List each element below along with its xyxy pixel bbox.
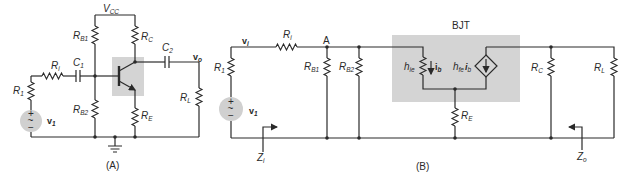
rl-resistor <box>196 88 202 106</box>
rb2-resistor <box>92 100 98 118</box>
label-zi: Zi <box>256 152 265 164</box>
rc-resistor-b <box>548 58 554 76</box>
label-c1: C1 <box>73 57 84 69</box>
ri-resistor <box>42 73 63 79</box>
label-rb2-b: RB2 <box>339 61 355 73</box>
c1-capacitor <box>76 70 80 82</box>
label-rb2: RB2 <box>73 104 89 116</box>
rb1-resistor-b <box>324 58 330 76</box>
re-resistor <box>132 108 138 126</box>
caption-b: (B) <box>416 161 429 172</box>
label-c2: C2 <box>162 42 173 54</box>
rb1-resistor <box>92 26 98 44</box>
rl-resistor-b <box>611 58 617 76</box>
r1-resistor <box>28 82 34 100</box>
label-r1-b: R1 <box>214 62 225 74</box>
label-rc: RC <box>141 31 153 43</box>
caption-a: (A) <box>106 160 119 171</box>
ri-resistor-b <box>276 44 297 50</box>
label-v1: v1 <box>47 116 56 127</box>
label-ri: Ri <box>51 60 60 72</box>
re-resistor-b <box>452 108 458 126</box>
label-rl: RL <box>180 92 191 104</box>
label-rc-b: RC <box>531 62 543 74</box>
c2-capacitor <box>165 56 169 68</box>
label-v1-b: v1 <box>249 106 258 117</box>
label-rl-b: RL <box>594 62 605 74</box>
source-minus-sign: − <box>28 122 34 133</box>
label-zo: Zo <box>576 151 587 163</box>
label-vi: vi <box>242 36 249 47</box>
r1-resistor-b <box>228 58 234 76</box>
label-r1: R1 <box>13 85 24 97</box>
label-ri-b: Ri <box>283 29 292 41</box>
circuit-figure: VCC RB1 RC C2 vo Ri C1 R1 RL RB2 RE v1 +… <box>0 0 631 185</box>
label-node-a: A <box>323 35 330 46</box>
label-rb1-b: RB1 <box>304 61 320 73</box>
zi-arrow-icon <box>263 127 277 152</box>
label-re: RE <box>141 110 153 122</box>
panel-b-small-signal-model: vi Ri A R1 RB1 RB2 BJT hie ib hfeib RE R… <box>214 20 617 172</box>
label-vo: vo <box>193 52 202 63</box>
rc-resistor <box>132 26 138 44</box>
label-vcc: VCC <box>103 3 119 15</box>
rb2-resistor-b <box>356 58 362 76</box>
label-rb1: RB1 <box>73 30 89 42</box>
panel-a-common-emitter-amplifier: VCC RB1 RC C2 vo Ri C1 R1 RL RB2 RE v1 +… <box>13 3 202 171</box>
label-bjt: BJT <box>452 20 470 31</box>
ground-icon <box>108 137 122 152</box>
source-minus-sign-b: − <box>228 110 234 121</box>
label-re-b: RE <box>461 110 473 122</box>
